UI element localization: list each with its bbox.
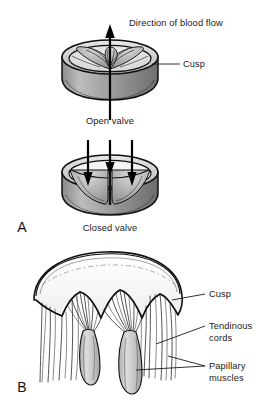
cusp-cords-papillary-illustration <box>34 252 182 394</box>
caption-closed-valve: Closed valve <box>83 223 137 233</box>
caption-open-valve: Open valve <box>86 116 134 126</box>
label-direction-of-blood-flow: Direction of blood flow <box>129 18 223 28</box>
cusp-sheet <box>34 252 182 318</box>
label-tendinous-cords-line1: Tendinous <box>209 321 253 331</box>
papillary-muscle-right <box>119 331 142 395</box>
tendinous-cords-leader-line <box>156 326 205 344</box>
papillary-muscles-group <box>80 330 142 395</box>
label-cusp-open-valve: Cusp <box>183 59 205 69</box>
label-papillary-muscles-line1: Papillary <box>209 361 246 371</box>
up-arrow-head <box>105 24 115 38</box>
valve-anatomy-figure: Direction of blood flow Cusp Open valve <box>0 0 263 401</box>
label-cusp-panel-b: Cusp <box>209 289 231 299</box>
label-tendinous-cords-line2: cords <box>209 333 232 343</box>
papillary-muscle-left <box>80 330 100 386</box>
panel-label-b: B <box>17 379 27 395</box>
panel-label-a: A <box>17 219 27 235</box>
papillary-muscles-leader-line-2 <box>168 356 205 366</box>
closed-valve-illustration <box>62 140 158 215</box>
label-papillary-muscles-line2: muscles <box>209 373 244 383</box>
figure-canvas: Direction of blood flow Cusp Open valve <box>0 0 263 401</box>
papillary-muscles-leader-line <box>136 366 205 370</box>
